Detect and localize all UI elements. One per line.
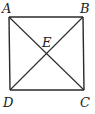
side-da <box>9 17 10 90</box>
side-bc <box>83 17 84 90</box>
square-diagram: A B C D E <box>0 0 95 114</box>
intersection-label-e: E <box>41 35 52 50</box>
vertex-label-c: C <box>80 95 90 110</box>
vertex-label-b: B <box>79 1 90 16</box>
vertex-label-a: A <box>1 1 11 16</box>
vertex-label-d: D <box>2 95 14 110</box>
